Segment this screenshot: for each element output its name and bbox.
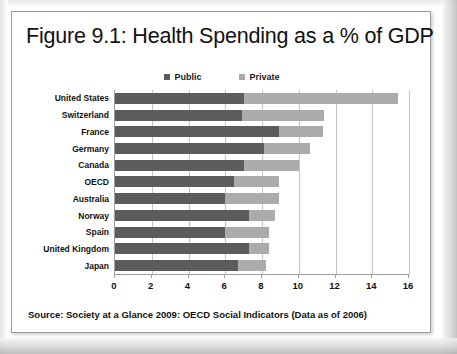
figure-box: Figure 9.1: Health Spending as a % of GD… xyxy=(11,11,431,333)
bar-track xyxy=(115,193,408,204)
bar-segment-private[interactable] xyxy=(234,176,278,187)
bar-row[interactable] xyxy=(115,207,408,224)
bar-segment-public[interactable] xyxy=(115,143,264,154)
legend-label-public: Public xyxy=(174,72,201,82)
x-axis-tick-label: 4 xyxy=(185,280,190,291)
legend-item-public: Public xyxy=(164,72,201,82)
bar-segment-private[interactable] xyxy=(238,260,266,271)
chart-legend: Public Private xyxy=(12,72,432,82)
bar-row[interactable] xyxy=(115,107,408,124)
legend-label-private: Private xyxy=(249,72,279,82)
bar-track xyxy=(115,260,408,271)
bar-track xyxy=(115,243,408,254)
bar-segment-private[interactable] xyxy=(242,110,325,121)
bar-row[interactable] xyxy=(115,257,408,274)
y-axis-label: OECD xyxy=(12,174,114,191)
bar-segment-public[interactable] xyxy=(115,93,244,104)
bar-row[interactable] xyxy=(115,224,408,241)
bar-row[interactable] xyxy=(115,123,408,140)
y-axis-label: United States xyxy=(12,90,114,107)
y-axis-label: Canada xyxy=(12,157,114,174)
x-axis-tick xyxy=(335,274,336,278)
bar-segment-public[interactable] xyxy=(115,110,242,121)
y-axis-label: Japan xyxy=(12,257,114,274)
scan-edge-right xyxy=(443,0,457,354)
bar-track xyxy=(115,227,408,238)
bar-segment-private[interactable] xyxy=(264,143,310,154)
legend-swatch-public-icon xyxy=(164,74,170,80)
bar-track xyxy=(115,210,408,221)
y-axis-label: Australia xyxy=(12,190,114,207)
bar-row[interactable] xyxy=(115,174,408,191)
x-axis-tick-label: 8 xyxy=(258,280,263,291)
x-axis-tick-label: 16 xyxy=(403,280,414,291)
legend-swatch-private-icon xyxy=(239,74,245,80)
bar-row[interactable] xyxy=(115,90,408,107)
x-axis-tick-label: 10 xyxy=(292,280,303,291)
scanned-page: Figure 9.1: Health Spending as a % of GD… xyxy=(0,0,457,354)
bar-track xyxy=(115,126,408,137)
legend-item-private: Private xyxy=(239,72,279,82)
x-axis-tick-label: 2 xyxy=(148,280,153,291)
bar-segment-public[interactable] xyxy=(115,210,249,221)
x-axis-tick xyxy=(224,274,225,278)
y-axis-label: United Kingdom xyxy=(12,241,114,258)
gridline xyxy=(409,90,410,274)
bar-segment-private[interactable] xyxy=(249,210,275,221)
bar-segment-private[interactable] xyxy=(244,160,299,171)
bar-row[interactable] xyxy=(115,140,408,157)
bars-canvas xyxy=(114,90,408,274)
bar-segment-public[interactable] xyxy=(115,160,244,171)
bar-segment-private[interactable] xyxy=(225,193,278,204)
plot-area: United StatesSwitzerlandFranceGermanyCan… xyxy=(12,90,432,320)
x-axis-tick-label: 14 xyxy=(366,280,377,291)
bar-segment-private[interactable] xyxy=(249,243,269,254)
bar-track xyxy=(115,93,408,104)
source-note: Source: Society at a Glance 2009: OECD S… xyxy=(28,309,367,320)
bar-segment-public[interactable] xyxy=(115,260,238,271)
y-axis-label: France xyxy=(12,123,114,140)
bar-segment-public[interactable] xyxy=(115,243,249,254)
bar-row[interactable] xyxy=(115,157,408,174)
y-axis-category-labels: United StatesSwitzerlandFranceGermanyCan… xyxy=(12,90,114,274)
scan-edge-top xyxy=(0,0,457,7)
y-axis-label: Switzerland xyxy=(12,107,114,124)
bar-track xyxy=(115,160,408,171)
bar-track xyxy=(115,110,408,121)
x-axis-tick-label: 6 xyxy=(222,280,227,291)
x-axis-tick-label: 0 xyxy=(111,280,116,291)
x-axis-tick xyxy=(151,274,152,278)
x-axis-tick xyxy=(298,274,299,278)
bar-segment-public[interactable] xyxy=(115,176,234,187)
bar-track xyxy=(115,176,408,187)
scan-edge-left xyxy=(0,0,8,354)
y-axis-label: Spain xyxy=(12,224,114,241)
bar-segment-private[interactable] xyxy=(279,126,323,137)
x-axis-tick xyxy=(408,274,409,278)
x-axis-tick xyxy=(261,274,262,278)
y-axis-label: Germany xyxy=(12,140,114,157)
bar-row[interactable] xyxy=(115,190,408,207)
bar-segment-private[interactable] xyxy=(244,93,398,104)
x-axis-tick xyxy=(114,274,115,278)
bar-segment-public[interactable] xyxy=(115,193,225,204)
x-axis-tick-label: 12 xyxy=(329,280,340,291)
bar-segment-public[interactable] xyxy=(115,227,225,238)
x-axis-tick xyxy=(371,274,372,278)
x-axis-tick xyxy=(188,274,189,278)
bar-segment-private[interactable] xyxy=(225,227,269,238)
bar-track xyxy=(115,143,408,154)
bar-row[interactable] xyxy=(115,241,408,258)
y-axis-label: Norway xyxy=(12,207,114,224)
bar-segment-public[interactable] xyxy=(115,126,279,137)
figure-title: Figure 9.1: Health Spending as a % of GD… xyxy=(26,24,422,49)
scan-edge-bottom xyxy=(0,338,457,354)
